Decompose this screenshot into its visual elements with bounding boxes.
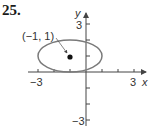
point-label: (−1, 1)	[22, 30, 54, 42]
x-tick-label-neg3: −3	[30, 76, 43, 88]
y-tick-label-3: 3	[76, 19, 82, 31]
graph: (−1, 1) −3 3 x y 3 −3	[0, 0, 151, 129]
y-axis-label: y	[74, 7, 82, 19]
center-point	[67, 54, 72, 59]
y-tick-label-neg3: −3	[72, 115, 85, 127]
x-axis-label: x	[141, 76, 148, 88]
x-tick-label-3: 3	[130, 76, 136, 88]
